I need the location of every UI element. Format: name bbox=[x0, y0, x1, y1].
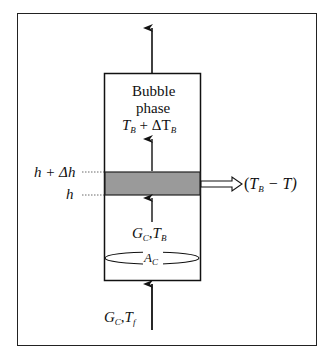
box-title-line2: phase bbox=[136, 101, 170, 116]
shaded-slice bbox=[105, 172, 200, 195]
inner-flow-label: GC,TB bbox=[132, 226, 166, 243]
box-title-line1: Bubble bbox=[132, 84, 175, 99]
feed-label: GC,Tf bbox=[104, 310, 135, 327]
heat-transfer-arrow bbox=[201, 177, 242, 191]
heat-transfer-label: (TB − T) bbox=[244, 176, 297, 194]
lower-height-label: h bbox=[66, 187, 74, 202]
cross-section-label: AC bbox=[144, 251, 158, 267]
top-temperature-label: TB + ΔTB bbox=[122, 118, 176, 135]
upper-height-label: h + Δh bbox=[34, 165, 75, 180]
